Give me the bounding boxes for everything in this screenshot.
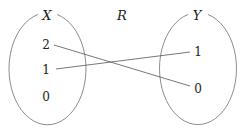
y-element-1: 1 (194, 45, 202, 59)
mapping-2-to-0 (54, 45, 190, 86)
set-x-label: X (41, 8, 52, 23)
x-element-0: 0 (42, 90, 50, 104)
y-element-0: 0 (194, 82, 202, 96)
x-element-1: 1 (42, 63, 50, 77)
set-y-ellipse (159, 15, 236, 125)
relation-diagram: X R Y 2 1 0 1 0 (0, 0, 245, 134)
relation-label: R (116, 8, 127, 23)
set-y-label: Y (193, 8, 203, 23)
x-element-2: 2 (42, 38, 50, 52)
mapping-1-to-1 (56, 52, 190, 69)
